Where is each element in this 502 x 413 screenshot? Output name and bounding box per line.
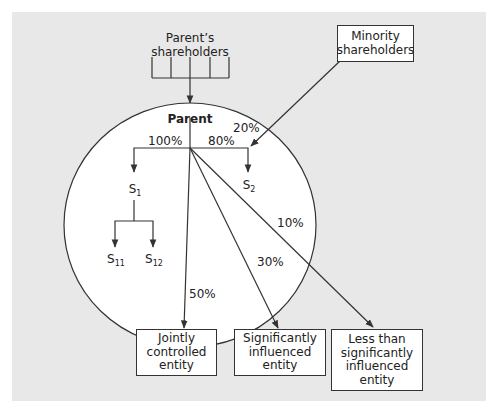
parents-shareholders-label: Parent’s shareholders <box>150 31 230 59</box>
less-than-significant-line-1: Less than <box>348 333 405 347</box>
pct-parent-to-s1: 100% <box>148 134 182 148</box>
jointly-controlled-line-3: entity <box>159 359 194 373</box>
pct-minority-to-s2: 20% <box>233 121 260 135</box>
s11-sub: 11 <box>115 259 125 268</box>
arrow-minority-to-s2 <box>251 61 340 146</box>
less-than-significantly-influenced-entity-box: Less than significantly influenced entit… <box>331 329 423 391</box>
jointly-controlled-entity-box: Jointly controlled entity <box>136 329 217 376</box>
s11-label: S11 <box>105 252 127 271</box>
less-than-significant-line-3: influenced <box>346 360 409 374</box>
pct-parent-to-less-than-significant: 10% <box>277 216 304 230</box>
jointly-controlled-line-1: Jointly <box>158 332 195 346</box>
pct-parent-to-jointly-controlled: 50% <box>189 287 216 301</box>
parent-label: Parent <box>160 112 220 126</box>
s12-sub: 12 <box>153 259 163 268</box>
parents-shareholders-line-1: Parent’s <box>150 31 230 45</box>
s12-base: S <box>145 252 153 266</box>
shareholders-comb <box>152 57 229 78</box>
significantly-influenced-line-1: Significantly <box>243 332 317 346</box>
less-than-significant-line-4: entity <box>360 374 395 388</box>
s1-label: S1 <box>126 182 144 201</box>
significantly-influenced-entity-box: Significantly influenced entity <box>234 329 326 376</box>
minority-shareholders-line-2: shareholders <box>337 44 415 58</box>
pct-parent-to-significantly-influenced: 30% <box>257 255 284 269</box>
significantly-influenced-line-2: influenced <box>249 346 312 360</box>
minority-shareholders-box: Minority shareholders <box>337 25 414 62</box>
s12-label: S12 <box>143 252 165 271</box>
significantly-influenced-line-3: entity <box>263 359 298 373</box>
s2-label: S2 <box>240 178 258 197</box>
minority-shareholders-line-1: Minority <box>351 30 400 44</box>
less-than-significant-line-2: significantly <box>341 347 413 361</box>
s2-sub: 2 <box>250 185 255 194</box>
s11-base: S <box>107 252 115 266</box>
s1-sub: 1 <box>136 189 141 198</box>
jointly-controlled-line-2: controlled <box>147 346 207 360</box>
parents-shareholders-line-2: shareholders <box>150 45 230 59</box>
pct-parent-to-s2: 80% <box>208 134 235 148</box>
